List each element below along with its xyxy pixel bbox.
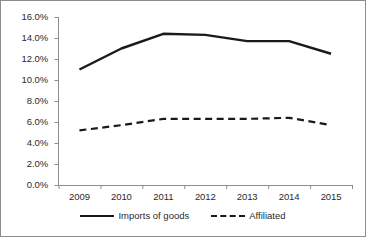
x-axis-tick-label: 2013 bbox=[227, 191, 267, 202]
legend-item-imports-of-goods: Imports of goods bbox=[80, 210, 189, 221]
x-axis-tick-label: 2010 bbox=[101, 191, 141, 202]
axis-lines bbox=[59, 17, 353, 186]
legend-label-affiliated: Affiliated bbox=[249, 210, 285, 221]
legend-line-dashed-icon bbox=[211, 215, 245, 217]
legend-label-imports-of-goods: Imports of goods bbox=[118, 210, 189, 221]
x-axis-tick-label: 2009 bbox=[59, 191, 99, 202]
x-axis-tick-label: 2012 bbox=[185, 191, 225, 202]
chart-legend: Imports of goods Affiliated bbox=[0, 210, 366, 221]
line-chart: 0.0%2.0%4.0%6.0%8.0%10.0%12.0%14.0%16.0%… bbox=[0, 0, 366, 237]
y-axis-ticks bbox=[55, 18, 59, 186]
x-axis-tick-label: 2014 bbox=[269, 191, 309, 202]
data-series-layer bbox=[79, 34, 331, 131]
x-axis-tick-label: 2011 bbox=[143, 191, 183, 202]
x-axis-tick-label: 2015 bbox=[311, 191, 351, 202]
legend-line-solid-icon bbox=[80, 215, 114, 217]
series-line-affiliated bbox=[79, 118, 331, 131]
legend-item-affiliated: Affiliated bbox=[211, 210, 285, 221]
series-line-imports-of-goods bbox=[79, 34, 331, 70]
